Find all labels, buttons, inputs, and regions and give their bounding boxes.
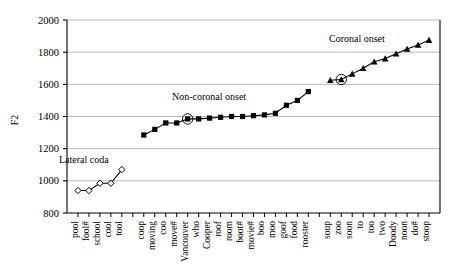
data-point-marker (207, 116, 212, 121)
y-tick-label: 800 (43, 208, 59, 219)
x-tick-label: moving (147, 221, 157, 250)
x-tick-label: roof (213, 220, 223, 237)
annotation-non-coronal-onset: Non-coronal onset (172, 91, 246, 102)
x-tick-label: coop (136, 221, 146, 240)
y-tick-label: 2000 (38, 15, 59, 26)
x-tick-label: movie# (246, 221, 256, 250)
x-tick-label: school (92, 221, 102, 246)
x-tick-label: move# (169, 221, 179, 247)
x-axis-tick-labels: poolfool#schoolcooltoolcoopmovingcoomove… (70, 220, 431, 261)
data-point-marker (185, 116, 190, 121)
y-tick-label: 1000 (38, 175, 59, 186)
x-tick-label: boot# (235, 221, 245, 243)
data-point-marker (273, 111, 278, 116)
x-tick-label: food (289, 221, 299, 239)
x-tick-label: boo (256, 221, 266, 236)
data-point-marker (174, 120, 179, 125)
x-tick-label: who (191, 221, 201, 238)
y-tick-label: 1200 (38, 143, 59, 154)
x-tick-label: fool# (81, 221, 91, 241)
y-tick-label: 1400 (38, 111, 59, 122)
annotation-coronal-onset: Coronal onset (329, 33, 385, 44)
x-tick-label: rooster (300, 220, 310, 247)
x-tick-label: pool (70, 221, 80, 238)
x-tick-label: tool (114, 221, 124, 236)
f2-scatter-line-chart: 800100012001400160018002000 F2 poolfool#… (0, 0, 455, 279)
chart-figure: 800100012001400160018002000 F2 poolfool#… (0, 0, 455, 279)
x-tick-label: coo (158, 221, 168, 235)
y-axis-title: F2 (9, 115, 20, 126)
x-tick-label: Doody (388, 221, 398, 247)
x-tick-label: Cooper (202, 220, 212, 249)
x-tick-label: too (366, 221, 376, 233)
x-tick-label: room (224, 220, 234, 241)
x-tick-label: goof (278, 220, 288, 238)
x-tick-label: Vancouver (180, 220, 190, 261)
x-axis-ticks (78, 213, 429, 217)
x-tick-label: moo (267, 221, 277, 238)
x-tick-label: do# (410, 221, 420, 236)
y-tick-label: 1800 (38, 47, 59, 58)
data-point-marker (163, 120, 168, 125)
data-point-marker (196, 116, 201, 121)
data-point-marker (262, 112, 267, 117)
x-tick-label: noon (399, 221, 409, 240)
data-point-marker (152, 127, 157, 132)
x-tick-label: stoop (421, 221, 431, 242)
data-point-marker (306, 89, 311, 94)
x-tick-label: to (355, 221, 365, 229)
data-point-marker (284, 103, 289, 108)
annotation-lateral-coda: Lateral coda (59, 154, 109, 165)
data-point-marker (229, 114, 234, 119)
x-tick-label: two (377, 221, 387, 236)
data-point-marker (295, 98, 300, 103)
x-tick-label: soon (344, 221, 354, 239)
x-tick-label: cool (103, 221, 113, 238)
y-tick-label: 1600 (38, 79, 59, 90)
y-axis-ticks: 800100012001400160018002000 (38, 15, 67, 219)
x-tick-label: zoo (333, 221, 343, 235)
data-point-marker (240, 114, 245, 119)
data-point-marker (218, 115, 223, 120)
data-point-marker (141, 132, 146, 137)
x-tick-label: soup (322, 221, 332, 239)
data-point-marker (251, 113, 256, 118)
